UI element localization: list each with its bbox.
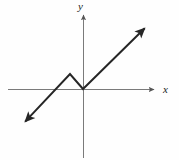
graph-figure: y x [0, 0, 179, 160]
x-axis-label: x [163, 84, 168, 95]
piecewise-linear-curve [25, 28, 145, 121]
coordinate-plane-svg [0, 0, 179, 160]
y-axis-label: y [78, 1, 83, 12]
